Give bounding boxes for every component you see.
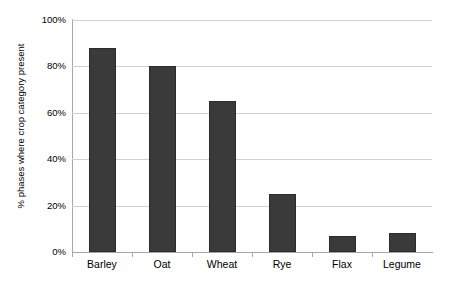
- x-axis-labels: BarleyOatWheatRyeFlaxLegume: [72, 258, 432, 274]
- x-axis-label-oat: Oat: [132, 258, 192, 274]
- y-tick-label: 40%: [26, 153, 66, 164]
- bar-flax[interactable]: [329, 236, 356, 252]
- bars-layer: [72, 20, 432, 252]
- bar-rye[interactable]: [269, 194, 296, 252]
- x-tick-mark: [72, 252, 73, 257]
- x-tick-mark: [132, 252, 133, 257]
- bar-chart: % phases where crop category present 0%2…: [0, 0, 451, 284]
- x-tick-mark: [192, 252, 193, 257]
- x-tick-mark: [312, 252, 313, 257]
- y-tick-label: 60%: [26, 107, 66, 118]
- y-tick-label: 20%: [26, 200, 66, 211]
- x-tick-mark: [252, 252, 253, 257]
- bar-slot: [132, 20, 192, 252]
- bar-slot: [312, 20, 372, 252]
- x-tick-mark: [372, 252, 373, 257]
- bar-slot: [372, 20, 432, 252]
- y-tick-label: 100%: [26, 14, 66, 25]
- bar-barley[interactable]: [89, 48, 116, 252]
- x-axis-label-rye: Rye: [252, 258, 312, 274]
- x-axis-label-wheat: Wheat: [192, 258, 252, 274]
- y-tick-label: 80%: [26, 60, 66, 71]
- bar-slot: [252, 20, 312, 252]
- x-axis-label-flax: Flax: [312, 258, 372, 274]
- bar-legume[interactable]: [389, 233, 416, 252]
- x-axis-label-barley: Barley: [72, 258, 132, 274]
- y-axis-ticks: 0%20%40%60%80%100%: [26, 20, 66, 252]
- y-tick-label: 0%: [26, 246, 66, 257]
- bar-slot: [192, 20, 252, 252]
- bar-slot: [72, 20, 132, 252]
- bar-wheat[interactable]: [209, 101, 236, 252]
- x-axis-label-legume: Legume: [372, 258, 432, 274]
- bar-oat[interactable]: [149, 66, 176, 252]
